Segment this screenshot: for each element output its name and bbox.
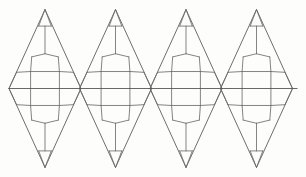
- cell-edge: [242, 105, 243, 120]
- cell-edge: [59, 72, 73, 73]
- unit-lower-half: [221, 89, 293, 168]
- cell-edge: [109, 10, 115, 27]
- cell-edge: [116, 120, 129, 123]
- cell-edge: [45, 54, 58, 57]
- cell-edge: [250, 10, 256, 27]
- cell-edge: [243, 54, 256, 57]
- cell-edge: [257, 120, 270, 123]
- cell-edge: [158, 105, 172, 106]
- cell-edge: [45, 120, 58, 123]
- cell-edge: [129, 105, 130, 120]
- cell-edge: [9, 89, 17, 105]
- cell-edge: [150, 89, 158, 105]
- cell-edge: [257, 54, 270, 57]
- cell-edge: [45, 151, 51, 168]
- cell-edge: [87, 72, 101, 73]
- unit-lower-half: [9, 89, 81, 168]
- cell-edge: [101, 105, 102, 120]
- cell-edge: [102, 120, 115, 123]
- cell-edge: [270, 105, 271, 120]
- cell-edge: [200, 105, 214, 106]
- cell-edge: [158, 72, 172, 73]
- cell-edge: [173, 54, 186, 57]
- cell-edge: [31, 57, 32, 72]
- cell-edge: [180, 10, 186, 27]
- cell-edge: [221, 72, 229, 88]
- figure-root: [0, 0, 306, 177]
- cell-edge: [129, 57, 130, 72]
- cell-edge: [186, 151, 192, 168]
- unit-upper-half: [221, 10, 293, 89]
- cell-edge: [32, 54, 45, 57]
- cell-edge: [39, 10, 45, 27]
- cell-edge: [80, 72, 88, 88]
- cell-edge: [130, 72, 144, 73]
- cell-edge: [186, 10, 192, 27]
- cell-edge: [257, 151, 263, 168]
- cell-edge: [73, 89, 81, 105]
- cell-edge: [101, 57, 102, 72]
- cell-edge: [150, 72, 158, 88]
- unit-lower-half: [80, 89, 152, 168]
- cell-edge: [180, 151, 186, 168]
- cell-edge: [199, 57, 200, 72]
- cell-edge: [144, 89, 152, 105]
- cell-edge: [186, 120, 199, 123]
- cell-edge: [17, 105, 31, 106]
- cell-edge: [228, 105, 242, 106]
- cell-edge: [173, 120, 186, 123]
- cell-edge: [200, 72, 214, 73]
- cell-edge: [45, 10, 51, 27]
- cell-edge: [130, 105, 144, 106]
- cell-edge: [58, 57, 59, 72]
- cell-edge: [39, 151, 45, 168]
- cell-edge: [271, 72, 285, 73]
- unit-upper-half: [9, 10, 81, 89]
- cell-edge: [9, 72, 17, 88]
- cell-edge: [109, 151, 115, 168]
- cell-edge: [285, 72, 293, 88]
- cell-edge: [242, 57, 243, 72]
- cell-edge: [116, 54, 129, 57]
- cell-edge: [102, 54, 115, 57]
- cell-edge: [17, 72, 31, 73]
- cell-edge: [32, 120, 45, 123]
- cell-edge: [80, 89, 88, 105]
- cell-edge: [271, 105, 285, 106]
- cell-edge: [221, 89, 229, 105]
- cell-edge: [73, 72, 81, 88]
- cell-edge: [250, 151, 256, 168]
- cell-edge: [243, 120, 256, 123]
- cell-edge: [87, 105, 101, 106]
- cell-edge: [199, 105, 200, 120]
- cell-edge: [285, 89, 293, 105]
- cell-edge: [172, 57, 173, 72]
- cell-edge: [172, 105, 173, 120]
- cell-edge: [116, 10, 122, 27]
- cell-edge: [214, 72, 222, 88]
- cell-edge: [270, 57, 271, 72]
- cell-edge: [58, 105, 59, 120]
- rhombic-tiling-diagram: [0, 0, 306, 177]
- cell-edge: [144, 72, 152, 88]
- cell-edge: [116, 151, 122, 168]
- cell-edge: [214, 89, 222, 105]
- cell-edge: [257, 10, 263, 27]
- unit-upper-half: [150, 10, 222, 89]
- cell-edge: [59, 105, 73, 106]
- cell-edge: [186, 54, 199, 57]
- cell-edge: [228, 72, 242, 73]
- unit-upper-half: [80, 10, 152, 89]
- cell-edge: [31, 105, 32, 120]
- unit-lower-half: [150, 89, 222, 168]
